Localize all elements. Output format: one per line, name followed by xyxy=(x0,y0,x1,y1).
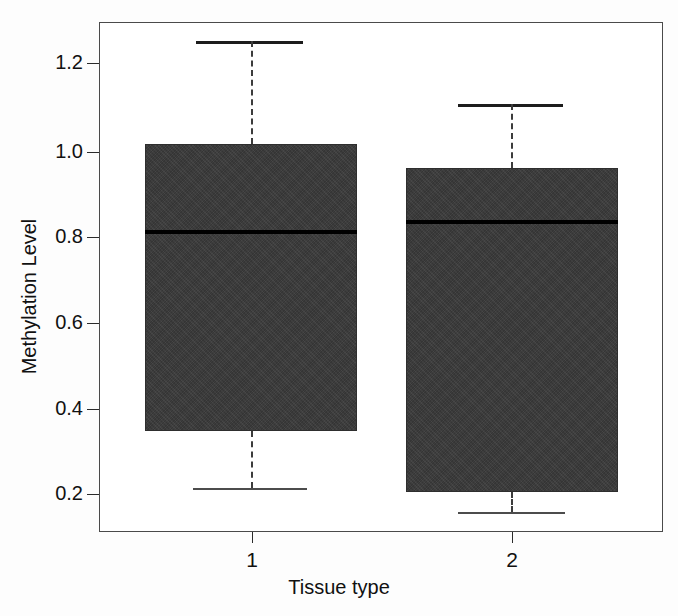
x-tick-label-2: 2 xyxy=(482,548,542,572)
y-axis-title: Methylation Level xyxy=(18,177,41,417)
whisker-cap-upper-1 xyxy=(196,41,303,44)
x-tick-mark-2 xyxy=(512,532,513,543)
y-tick-label-1.2: 1.2 xyxy=(0,51,83,74)
median-line-2 xyxy=(406,220,618,224)
whisker-cap-lower-2 xyxy=(458,512,565,514)
median-line-1 xyxy=(145,230,357,234)
y-tick-mark-0.8 xyxy=(87,237,99,238)
whisker-line-lower-1 xyxy=(251,431,253,488)
y-tick-label-0.2: 0.2 xyxy=(0,482,83,505)
x-axis-title: Tissue type xyxy=(0,576,678,599)
y-tick-mark-1.2 xyxy=(87,63,99,64)
whisker-line-lower-2 xyxy=(511,492,513,512)
y-tick-label-0.6: 0.6 xyxy=(0,311,83,334)
y-tick-label-0.4: 0.4 xyxy=(0,397,83,420)
y-tick-label-1.0: 1.0 xyxy=(0,140,83,163)
whisker-line-upper-2 xyxy=(511,104,513,168)
y-tick-mark-0.4 xyxy=(87,409,99,410)
boxplot-figure: 0.2 0.4 0.6 0.8 1.0 1.2 Methylation Leve… xyxy=(0,0,678,616)
y-tick-mark-0.6 xyxy=(87,323,99,324)
whisker-cap-lower-1 xyxy=(193,488,307,490)
box-1 xyxy=(145,144,357,431)
y-tick-mark-0.2 xyxy=(87,494,99,495)
x-tick-label-1: 1 xyxy=(222,548,282,572)
box-2 xyxy=(406,168,618,492)
x-tick-mark-1 xyxy=(252,532,253,543)
whisker-line-upper-1 xyxy=(251,41,253,144)
y-tick-label-0.8: 0.8 xyxy=(0,225,83,248)
y-tick-mark-1.0 xyxy=(87,152,99,153)
